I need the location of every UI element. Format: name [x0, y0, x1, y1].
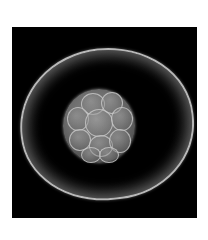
micrograph-frame — [12, 27, 197, 218]
blastomere — [111, 107, 133, 131]
blastomere — [99, 147, 119, 163]
morula — [63, 89, 135, 163]
blastomere — [85, 109, 113, 137]
blastomere — [81, 147, 101, 163]
